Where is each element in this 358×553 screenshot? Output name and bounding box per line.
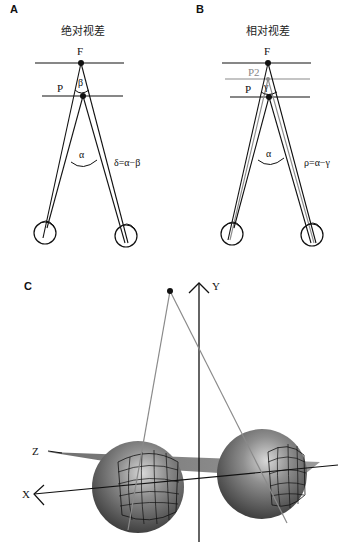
angle-beta: β: [78, 77, 83, 88]
equation-delta: δ=α−β: [114, 157, 140, 168]
label-f-b: F: [264, 45, 270, 57]
gamma-arc: [261, 92, 277, 95]
angle-alpha-b: α: [266, 148, 272, 159]
point-p-dot: [80, 93, 86, 99]
axis-y-label: Y: [212, 280, 220, 292]
label-p: P: [57, 82, 63, 94]
fixation-point-dot-b: [265, 60, 271, 66]
target-point-dot: [167, 288, 173, 294]
alpha-arc: [71, 160, 97, 167]
axis-x-label: X: [22, 488, 30, 500]
panel-c-letter: C: [24, 280, 32, 292]
panel-a: A 绝对视差 F P β α δ=α−β: [10, 3, 140, 247]
fixation-point-dot: [78, 60, 84, 66]
label-f: F: [77, 45, 83, 57]
beta-arc: [75, 90, 89, 93]
left-eye-a: [34, 221, 56, 244]
angle-alpha: α: [79, 149, 85, 160]
panel-b-letter: B: [196, 3, 204, 15]
angle-gamma: γ: [263, 81, 269, 92]
stereo-disparity-figure: A 绝对视差 F P β α δ=α−β B 相对视差: [0, 0, 358, 553]
equation-rho: ρ=α−γ: [304, 157, 331, 168]
panel-b-title: 相对视差: [246, 24, 290, 38]
axis-z-label: Z: [32, 445, 39, 457]
panel-a-letter: A: [10, 3, 18, 15]
label-p-b: P: [245, 83, 251, 95]
panel-b: B 相对视差 F P2 P γ α ρ=α−γ: [196, 3, 331, 246]
label-p2: P2: [248, 66, 260, 78]
x-axis-arrowhead: [34, 485, 44, 505]
panel-c: C Z: [22, 280, 338, 542]
panel-a-title: 绝对视差: [61, 24, 105, 38]
